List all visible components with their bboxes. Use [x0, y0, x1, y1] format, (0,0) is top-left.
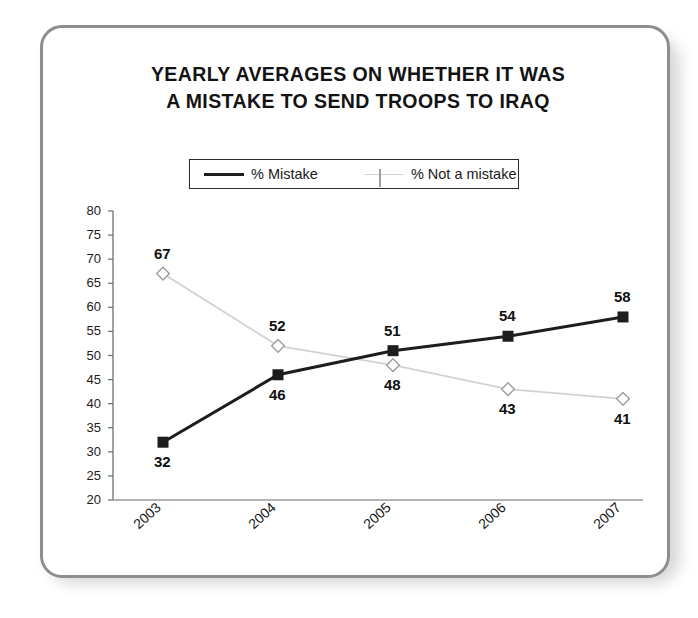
- data-point-value-label: 52: [269, 317, 286, 334]
- data-point-value-label: 46: [269, 386, 286, 403]
- data-point-marker-diamond[interactable]: [272, 340, 285, 353]
- y-tick-label: 25: [71, 468, 101, 483]
- plot-area: 80757065605550454035302520 2003200420052…: [43, 28, 673, 581]
- data-point-value-label: 48: [384, 376, 401, 393]
- y-tick-label: 40: [71, 396, 101, 411]
- y-tick-marks: [108, 211, 113, 500]
- y-tick-label: 75: [71, 227, 101, 242]
- y-tick-label: 50: [71, 348, 101, 363]
- data-point-marker-diamond[interactable]: [387, 359, 400, 372]
- y-tick-label: 70: [71, 251, 101, 266]
- y-tick-label: 60: [71, 299, 101, 314]
- chart-page: YEARLY AVERAGES ON WHETHER IT WAS A MIST…: [0, 0, 698, 618]
- data-point-marker-square[interactable]: [618, 311, 629, 322]
- data-point-marker-diamond[interactable]: [502, 383, 515, 396]
- data-point-value-label: 58: [614, 288, 631, 305]
- chart-card: YEARLY AVERAGES ON WHETHER IT WAS A MIST…: [40, 25, 670, 578]
- y-tick-label: 45: [71, 372, 101, 387]
- y-tick-label: 80: [71, 203, 101, 218]
- data-point-value-label: 51: [384, 322, 401, 339]
- data-point-marker-diamond[interactable]: [157, 267, 170, 280]
- y-tick-label: 35: [71, 420, 101, 435]
- data-point-marker-diamond[interactable]: [617, 392, 630, 405]
- data-point-value-label: 54: [499, 307, 516, 324]
- y-tick-label: 30: [71, 444, 101, 459]
- data-point-marker-square[interactable]: [388, 345, 399, 356]
- data-point-marker-square[interactable]: [158, 437, 169, 448]
- data-point-marker-square[interactable]: [273, 369, 284, 380]
- data-point-value-label: 41: [614, 410, 631, 427]
- data-point-value-label: 32: [154, 453, 171, 470]
- y-tick-label: 55: [71, 323, 101, 338]
- data-point-marker-square[interactable]: [503, 331, 514, 342]
- y-tick-label: 65: [71, 275, 101, 290]
- y-tick-label: 20: [71, 492, 101, 507]
- plot-svg: [43, 28, 673, 581]
- data-point-value-label: 43: [499, 400, 516, 417]
- data-point-value-label: 67: [154, 245, 171, 262]
